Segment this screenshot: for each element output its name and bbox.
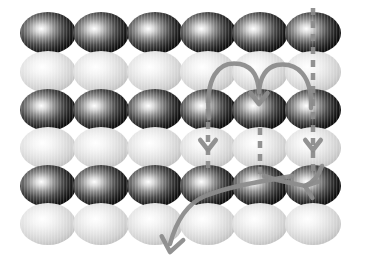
ion-texture	[180, 165, 236, 207]
ion-texture	[20, 165, 76, 207]
lattice-ion-light-r6c6	[285, 203, 341, 245]
lattice-ion-dark-r1c2	[73, 12, 129, 54]
lattice-ion-dark-r5c4	[180, 165, 236, 207]
ion-texture	[127, 51, 183, 93]
ion-texture	[232, 89, 288, 131]
lattice-ion-light-r4c1	[20, 127, 76, 169]
lattice-ion-light-r6c1	[20, 203, 76, 245]
lattice-ion-light-r2c3	[127, 51, 183, 93]
ion-texture	[127, 203, 183, 245]
ion-texture	[127, 127, 183, 169]
lattice-ion-dark-r5c2	[73, 165, 129, 207]
lattice-ion-dark-r3c6	[285, 89, 341, 131]
ion-texture	[285, 89, 341, 131]
ion-texture	[20, 12, 76, 54]
lattice-diffusion-figure	[0, 0, 383, 275]
lattice-ion-dark-r1c1	[20, 12, 76, 54]
lattice-ion-dark-r1c4	[180, 12, 236, 54]
ion-texture	[20, 203, 76, 245]
ion-texture	[20, 89, 76, 131]
lattice-ion-light-r2c1	[20, 51, 76, 93]
ion-texture	[127, 89, 183, 131]
lattice-ion-dark-r3c2	[73, 89, 129, 131]
ion-texture	[127, 165, 183, 207]
lattice-ion-dark-r5c3	[127, 165, 183, 207]
lattice-ion-light-r4c2	[73, 127, 129, 169]
lattice-ion-dark-r5c6	[285, 165, 341, 207]
ion-texture	[232, 203, 288, 245]
lattice-diagram	[0, 0, 383, 275]
lattice-ion-dark-r5c1	[20, 165, 76, 207]
ion-texture	[73, 165, 129, 207]
ion-texture	[73, 203, 129, 245]
lattice-ion-light-r2c2	[73, 51, 129, 93]
lattice-ion-light-r4c3	[127, 127, 183, 169]
lattice-ion-light-r6c2	[73, 203, 129, 245]
ion-texture	[20, 127, 76, 169]
lattice-ion-dark-r1c3	[127, 12, 183, 54]
ion-texture	[73, 89, 129, 131]
lattice-ion-light-r6c3	[127, 203, 183, 245]
lattice-ion-light-r6c5	[232, 203, 288, 245]
lattice-ion-dark-r1c5	[232, 12, 288, 54]
ion-texture	[73, 127, 129, 169]
ion-texture	[285, 165, 341, 207]
ion-texture	[20, 51, 76, 93]
lattice-ion-dark-r3c1	[20, 89, 76, 131]
ion-texture	[180, 12, 236, 54]
ion-texture	[232, 12, 288, 54]
ion-texture	[285, 203, 341, 245]
ion-texture	[73, 12, 129, 54]
ion-texture	[127, 12, 183, 54]
lattice-ion-dark-r3c5	[232, 89, 288, 131]
ion-texture	[73, 51, 129, 93]
lattice-ion-dark-r3c3	[127, 89, 183, 131]
